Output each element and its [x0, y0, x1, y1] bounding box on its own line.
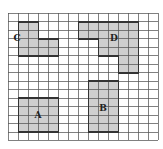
grid-line-horizontal — [8, 81, 158, 82]
grid-line-horizontal — [8, 13, 158, 14]
grid-line-horizontal — [8, 89, 158, 90]
shape-label-c: C — [13, 33, 20, 42]
grid-diagram: ABCD — [8, 13, 158, 140]
shape-outline — [138, 64, 140, 73]
grid-line-vertical — [68, 13, 69, 140]
grid-line-horizontal — [8, 106, 158, 107]
grid-line-vertical — [158, 13, 159, 140]
shape-label-d: D — [110, 33, 118, 42]
grid-line-horizontal — [8, 115, 158, 116]
shape-outline — [58, 123, 60, 132]
shape-outline — [98, 47, 100, 56]
shape-outline — [18, 123, 20, 132]
grid-line-vertical — [128, 13, 129, 140]
grid-line-horizontal — [8, 64, 158, 65]
shape-outline — [118, 64, 120, 73]
grid-line-vertical — [148, 13, 149, 140]
shape-outline — [88, 123, 90, 132]
grid-line-vertical — [98, 13, 99, 140]
grid-line-vertical — [8, 13, 9, 140]
grid-line-vertical — [28, 13, 29, 140]
shape-label-a: A — [35, 110, 42, 119]
grid-line-vertical — [108, 13, 109, 140]
shape-outline — [118, 123, 120, 132]
grid-line-horizontal — [8, 123, 158, 124]
grid-line-horizontal — [8, 47, 158, 48]
grid-line-horizontal — [8, 140, 158, 141]
shape-label-b: B — [99, 103, 107, 112]
shape-outline — [78, 30, 80, 39]
shape-outline — [58, 47, 60, 56]
grid-line-horizontal — [8, 30, 158, 31]
shape-outline — [18, 47, 20, 56]
grid-line-vertical — [48, 13, 49, 140]
